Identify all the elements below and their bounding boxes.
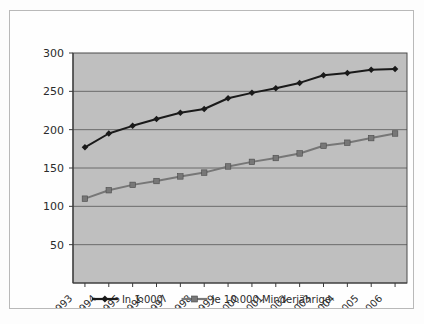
data-point-marker (249, 159, 255, 165)
data-point-marker (192, 296, 198, 302)
line-chart-plot: 5010015020025030019931994199519961997199… (10, 11, 413, 308)
data-point-marker (368, 135, 374, 141)
data-point-marker (225, 164, 231, 170)
chart-figure: 5010015020025030019931994199519961997199… (0, 0, 424, 324)
legend-label: Je 10.000 Minderjährige (211, 294, 331, 305)
y-axis-tick-label: 50 (50, 239, 64, 252)
data-point-marker (321, 143, 327, 149)
x-axis-tick-label: 1993 (49, 293, 75, 308)
y-axis-tick-label: 250 (43, 85, 64, 98)
data-point-marker (82, 196, 88, 202)
legend-label: In 1.000 (122, 294, 163, 305)
data-point-marker (201, 170, 207, 176)
x-axis-tick-label: 1994 (72, 293, 98, 308)
x-axis-tick-label: 2005 (335, 293, 361, 308)
data-point-marker (130, 182, 136, 188)
data-point-marker (273, 155, 279, 161)
x-axis-tick-label: 2006 (359, 293, 385, 308)
data-point-marker (345, 140, 351, 146)
y-axis-tick-label: 300 (43, 47, 64, 60)
x-axis-tick-label: 1998 (168, 293, 194, 308)
data-point-marker (297, 151, 303, 157)
y-axis-tick-label: 200 (43, 124, 64, 137)
x-axis-tick-label: 1995 (96, 293, 122, 308)
legend: In 1.000Je 10.000 Minderjährige (92, 294, 331, 305)
data-point-marker (154, 178, 160, 184)
y-axis: 50100150200250300 (43, 47, 73, 283)
data-point-marker (106, 187, 112, 193)
y-axis-tick-label: 150 (43, 162, 64, 175)
y-axis-tick-label: 100 (43, 200, 64, 213)
chart-frame: 5010015020025030019931994199519961997199… (9, 10, 414, 309)
data-point-marker (392, 131, 398, 137)
data-point-marker (178, 174, 184, 180)
